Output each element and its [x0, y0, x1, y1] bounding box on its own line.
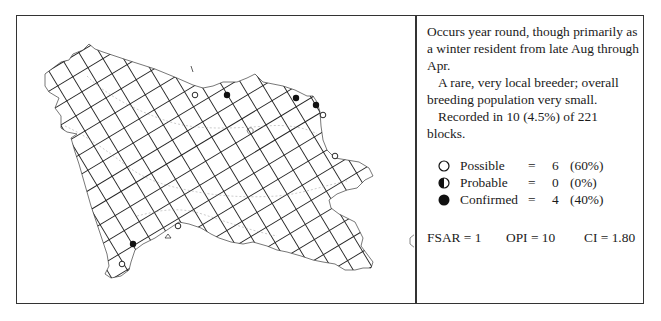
legend-percent: (60%)	[566, 157, 603, 174]
island-outline	[410, 234, 414, 248]
legend-label: Possible	[460, 157, 528, 174]
breeding-evidence-legend: Possible = 6 (60%) Probable = 0 (0%) Con…	[427, 157, 639, 208]
possible-marker-icon	[175, 223, 181, 229]
legend-label: Probable	[460, 174, 528, 191]
atlas-grid-map	[17, 16, 414, 303]
breeding-status-text: A rare, very local breeder; overall bree…	[427, 74, 639, 108]
county-outline	[45, 44, 373, 278]
possible-marker-icon	[332, 153, 338, 159]
confirmed-marker-icon	[293, 95, 299, 101]
legend-count: 4	[552, 191, 566, 208]
records-summary-text: Recorded in 10 (4.5%) of 221 blocks.	[427, 108, 639, 142]
species-account-panel: Occurs year round, though primarily as a…	[427, 23, 639, 246]
legend-row-confirmed: Confirmed = 4 (40%)	[427, 191, 639, 208]
possible-marker-icon	[192, 92, 198, 98]
confirmed-marker-icon	[130, 241, 136, 247]
ci-index: CI = 1.80	[584, 229, 635, 246]
observation-markers	[119, 92, 338, 267]
legend-equals: =	[528, 191, 552, 208]
opi-index: OPI = 10	[506, 229, 584, 246]
legend-equals: =	[528, 174, 552, 191]
panel-divider	[415, 15, 417, 304]
legend-label: Confirmed	[460, 191, 528, 208]
north-arrow-icon	[191, 66, 193, 72]
confirmed-marker-icon	[313, 102, 319, 108]
legend-count: 6	[552, 157, 566, 174]
atlas-block-grid	[17, 16, 414, 303]
legend-row-probable: Probable = 0 (0%)	[427, 174, 639, 191]
lake-feature	[247, 128, 253, 135]
fsar-index: FSAR = 1	[427, 229, 506, 246]
confirmed-marker-icon	[224, 92, 230, 98]
occurrence-text: Occurs year round, though primarily as a…	[427, 23, 639, 74]
possible-marker-icon	[320, 112, 326, 118]
half-circle-icon	[438, 177, 450, 189]
legend-count: 0	[552, 174, 566, 191]
open-circle-icon	[438, 160, 450, 172]
possible-marker-icon	[119, 261, 125, 267]
filled-circle-icon	[438, 194, 450, 206]
legend-percent: (40%)	[566, 191, 603, 208]
legend-row-possible: Possible = 6 (60%)	[427, 157, 639, 174]
harbor-feature	[165, 234, 171, 238]
legend-percent: (0%)	[566, 174, 597, 191]
legend-equals: =	[528, 157, 552, 174]
abundance-indices: FSAR = 1 OPI = 10 CI = 1.80	[427, 229, 639, 246]
